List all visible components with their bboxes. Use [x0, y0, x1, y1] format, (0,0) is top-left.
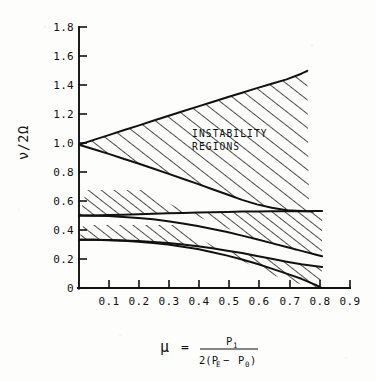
- instability-region-1: [60, 20, 350, 300]
- x-tick-label: 0.5: [219, 295, 240, 308]
- y-tick-label: 0: [67, 282, 74, 295]
- y-tick-label: 0.8: [53, 166, 74, 179]
- figure-canvas: 0 0.2 0.4 0.6 0.8 1.0 1.2 1.4 1.6 1.8 0.…: [0, 0, 376, 381]
- instability-regions-label-line2: REGIONS: [192, 141, 240, 152]
- caption-denominator-close-paren: ): [250, 354, 256, 366]
- caption-denominator-subscript-E: E: [216, 360, 221, 369]
- x-tick-label: 0.7: [280, 295, 301, 308]
- y-tick-label: 1.6: [53, 50, 74, 63]
- x-tick-label: 0.2: [129, 295, 150, 308]
- caption-equals-sign: =: [181, 339, 189, 354]
- x-tick-label: 0.6: [249, 295, 270, 308]
- x-tick-label: 0.1: [99, 295, 120, 308]
- y-tick-label: 1.0: [53, 137, 74, 150]
- y-tick-label: 1.8: [53, 21, 74, 34]
- y-tick-label: 0.4: [53, 224, 74, 237]
- x-tick-label: 0.9: [340, 295, 361, 308]
- y-axis-ticks: [79, 27, 87, 288]
- caption-denominator-minus: −: [223, 354, 229, 366]
- x-tick-label: 0.8: [310, 295, 331, 308]
- y-tick-label: 1.2: [53, 108, 74, 121]
- instability-regions-label-line1: INSTABILITY: [192, 128, 268, 139]
- x-tick-label: 0.4: [189, 295, 210, 308]
- y-tick-label: 1.4: [53, 79, 74, 92]
- x-axis-caption-formula: μ = P 1 2(P E − P 0 ): [160, 335, 258, 369]
- x-tick-labels: 0.1 0.2 0.3 0.4 0.5 0.6 0.7 0.8 0.9: [99, 295, 361, 308]
- y-tick-label: 0.6: [53, 195, 74, 208]
- caption-numerator-P: P: [226, 335, 232, 347]
- y-axis-title: ν/2Ω: [15, 125, 31, 160]
- y-tick-label: 0.2: [53, 253, 74, 266]
- y-tick-labels: 0 0.2 0.4 0.6 0.8 1.0 1.2 1.4 1.6 1.8: [53, 21, 74, 295]
- caption-denominator-P2: P: [238, 354, 244, 366]
- caption-mu-symbol: μ: [160, 338, 169, 356]
- instability-regions-chart: 0 0.2 0.4 0.6 0.8 1.0 1.2 1.4 1.6 1.8 0.…: [0, 0, 376, 381]
- x-tick-label: 0.3: [159, 295, 180, 308]
